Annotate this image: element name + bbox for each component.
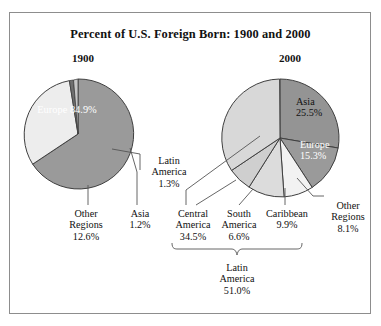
chart-label-1900: 1900	[58, 52, 108, 64]
callout-asia-2000: Asia 25.5%	[296, 96, 344, 119]
callout-value: 25.5%	[296, 107, 344, 118]
figure-root: Percent of U.S. Foreign Born: 1900 and 2…	[0, 0, 381, 326]
callout-name-line1: South	[216, 208, 262, 219]
callout-latin-america-1900: Latin America 1.3%	[138, 155, 200, 189]
callout-latin-america-2000: Latin America 51.0%	[206, 262, 268, 296]
callout-other-regions-2000: Other Regions 8.1%	[320, 200, 376, 234]
callout-name: Asia	[118, 208, 162, 219]
pie-chart-1900	[22, 78, 152, 190]
callout-central-america: Central America 34.5%	[168, 208, 218, 242]
callout-name-line2: America	[216, 219, 262, 230]
slice-name: Europe	[37, 104, 67, 115]
page-title: Percent of U.S. Foreign Born: 1900 and 2…	[0, 27, 381, 42]
callout-value: 12.6%	[56, 231, 116, 242]
callout-other-regions-1900: Other Regions 12.6%	[56, 208, 116, 242]
slice-label-europe-1900: Europe 84.9%	[36, 104, 98, 116]
callout-europe-2000: Europe 15.3%	[300, 139, 354, 162]
callout-caribbean: Caribbean 9.9%	[258, 208, 316, 231]
callout-value: 1.3%	[138, 178, 200, 189]
callout-value: 1.2%	[118, 219, 162, 230]
callout-name: Europe	[300, 139, 354, 150]
callout-name-line1: Other	[320, 200, 376, 211]
chart-label-2000: 2000	[265, 52, 315, 64]
callout-value: 8.1%	[320, 223, 376, 234]
callout-name-line1: Latin	[206, 262, 268, 273]
callout-name-line1: Central	[168, 208, 218, 219]
callout-value: 51.0%	[206, 285, 268, 296]
callout-name-line2: America	[168, 219, 218, 230]
callout-value: 6.6%	[216, 231, 262, 242]
callout-name: Caribbean	[258, 208, 316, 219]
callout-asia-1900: Asia 1.2%	[118, 208, 162, 231]
callout-name: Asia	[296, 96, 344, 107]
slice-value: 84.9%	[70, 104, 97, 115]
callout-south-america: South America 6.6%	[216, 208, 262, 242]
callout-value: 34.5%	[168, 231, 218, 242]
callout-value: 15.3%	[300, 150, 354, 161]
callout-name-line2: Regions	[56, 219, 116, 230]
callout-name-line2: America	[206, 273, 268, 284]
callout-name-line2: America	[138, 166, 200, 177]
callout-name-line1: Other	[56, 208, 116, 219]
callout-value: 9.9%	[258, 219, 316, 230]
callout-name-line1: Latin	[138, 155, 200, 166]
callout-name-line2: Regions	[320, 211, 376, 222]
